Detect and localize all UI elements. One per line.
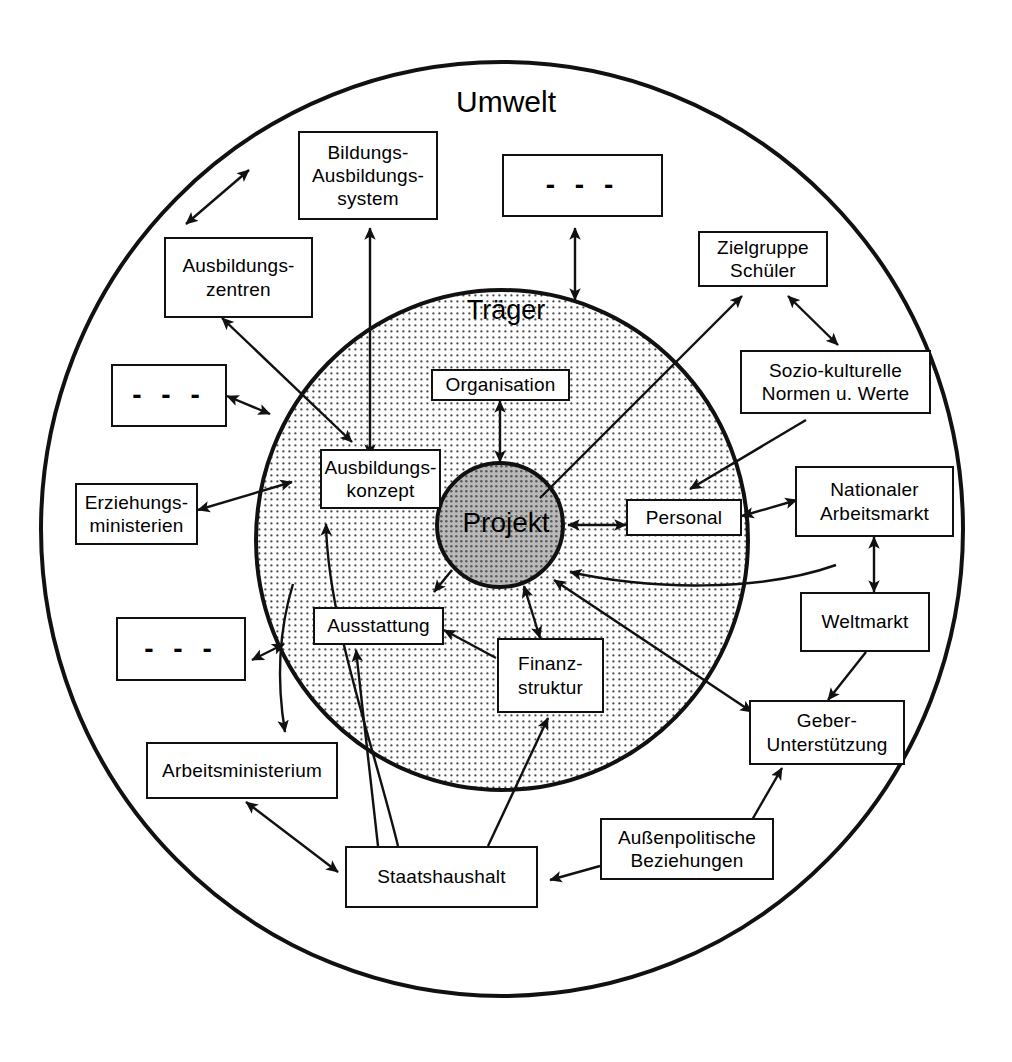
diagram-canvas: Umwelt Träger Projekt Bildungs- Ausbildu… [0, 0, 1012, 1062]
node-staatshaushalt[interactable]: Staatshaushalt [345, 846, 538, 908]
traeger-ring-label: Träger [0, 295, 1012, 326]
node-dots-left[interactable]: - - - [111, 364, 227, 427]
node-dots-bottomleft[interactable]: - - - [116, 617, 246, 681]
node-sozio-kulturelle[interactable]: Sozio-kulturelle Normen u. Werte [740, 350, 931, 414]
node-ausbildungskonzept[interactable]: Ausbildungs- konzept [320, 449, 441, 509]
node-bildungssystem[interactable]: Bildungs- Ausbildungs- system [298, 131, 438, 220]
node-nationaler-arbeitsmarkt[interactable]: Nationaler Arbeitsmarkt [795, 466, 954, 537]
node-organisation[interactable]: Organisation [431, 369, 570, 401]
node-finanzstruktur[interactable]: Finanz- struktur [497, 638, 604, 713]
node-arbeitsministerium[interactable]: Arbeitsministerium [146, 742, 338, 799]
node-weltmarkt[interactable]: Weltmarkt [800, 592, 930, 652]
umwelt-ring-label: Umwelt [0, 85, 1012, 119]
node-dots-top[interactable]: - - - [502, 154, 663, 217]
node-geber-unterstuetzung[interactable]: Geber- Unterstützung [749, 700, 905, 765]
node-aussenpolitische-beziehungen[interactable]: Außenpolitische Beziehungen [600, 818, 774, 880]
node-zielgruppe[interactable]: Zielgruppe Schüler [698, 231, 828, 287]
node-personal[interactable]: Personal [626, 499, 742, 536]
node-ausbildungszentren[interactable]: Ausbildungs- zentren [164, 237, 313, 318]
node-ausstattung[interactable]: Ausstattung [313, 607, 444, 645]
node-erziehungsministerien[interactable]: Erziehungs- ministerien [75, 483, 198, 545]
